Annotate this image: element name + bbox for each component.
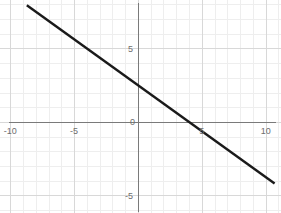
coordinate-plane-chart: -10-50510 5-5 (0, 0, 281, 213)
y-tick-label-5: 5 (128, 44, 133, 54)
x-tick-label-10: 10 (261, 126, 271, 136)
graph-container: -10-50510 5-5 (0, 0, 281, 213)
y-tick-label-neg5: -5 (125, 191, 133, 201)
x-tick-label-neg10: -10 (4, 126, 17, 136)
x-tick-label-neg5: -5 (70, 126, 78, 136)
x-tick-label-origin: 0 (130, 117, 135, 127)
x-tick-label-5: 5 (199, 126, 204, 136)
